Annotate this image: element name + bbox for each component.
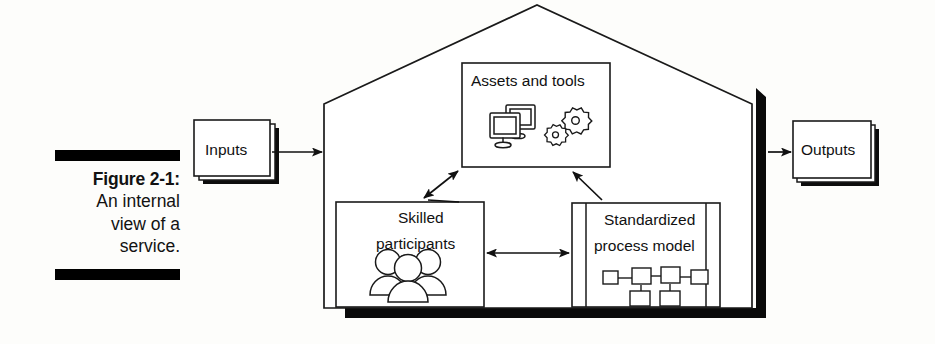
skilled-participants-label-line-1: Skilled [398, 209, 444, 227]
outputs-label: Outputs [801, 141, 855, 159]
skilled-participants-label-line-2: participants [376, 235, 455, 253]
diagram-canvas [0, 0, 935, 344]
standardized-process-model-label-line-1: Standardized [604, 211, 695, 229]
inputs-label: Inputs [205, 141, 247, 159]
gear-icon [545, 125, 569, 146]
assets-and-tools-label: Assets and tools [471, 72, 585, 90]
figure-diagram: Figure 2-1: An internal view of a servic… [0, 0, 935, 344]
standardized-process-model-label-line-2: process model [594, 237, 695, 255]
